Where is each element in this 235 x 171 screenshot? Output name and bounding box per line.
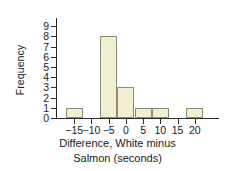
- y-axis-tick-label: 7: [27, 42, 49, 52]
- y-axis-tick: [51, 118, 57, 119]
- plot-area: [57, 20, 212, 118]
- y-axis-tick-label: 8: [27, 31, 49, 41]
- x-axis-tick-label: 20: [183, 124, 207, 136]
- histogram-bar: [152, 108, 169, 118]
- histogram-bar: [100, 36, 117, 118]
- y-axis-tick-label: 5: [27, 62, 49, 72]
- y-axis-tick-label: 1: [27, 103, 49, 113]
- y-axis-tick-label: 3: [27, 82, 49, 92]
- histogram-bar: [117, 87, 134, 118]
- histogram-chart: Frequency 0123456789 −15−10−505101520 Di…: [0, 0, 235, 171]
- histogram-bar: [186, 108, 203, 118]
- x-axis-title: Difference, White minus Salmon (seconds): [0, 136, 235, 166]
- histogram-bar: [135, 108, 152, 118]
- y-axis-tick-label: 0: [27, 113, 49, 123]
- y-axis-tick-label: 2: [27, 93, 49, 103]
- x-axis-title-line-2: Salmon (seconds): [0, 151, 235, 166]
- y-axis-tick-label: 9: [27, 21, 49, 31]
- histogram-bar: [66, 108, 83, 118]
- x-axis-title-line-1: Difference, White minus: [0, 136, 235, 151]
- y-axis-tick-label: 6: [27, 52, 49, 62]
- y-axis-tick-label: 4: [27, 72, 49, 82]
